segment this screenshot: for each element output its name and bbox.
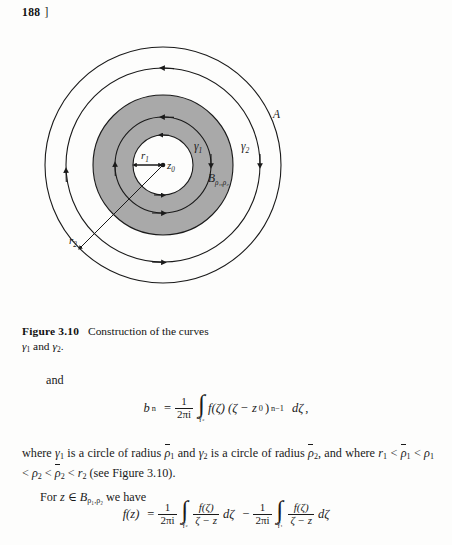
caption-period: .: [61, 340, 64, 352]
eq1-fraction: 1 2πi: [175, 396, 193, 420]
eq2-minus: −: [242, 507, 249, 522]
eq1-exponent: n−1: [271, 404, 284, 413]
document-page: 188]: [0, 0, 452, 545]
paragraph-where: where γ1 is a circle of radius ρ1 and γ2…: [22, 445, 434, 486]
page-number: 188: [22, 6, 40, 18]
p-line1b: is a circle of radius: [64, 446, 165, 460]
p-line1e: , and: [318, 446, 342, 460]
eq2-fraction-1: 1 2πi: [158, 502, 176, 526]
p-lt4: <: [42, 466, 55, 480]
eq1-integrand: f(ζ) (ζ − z: [208, 401, 257, 416]
label-radius-r1: r1: [141, 149, 149, 164]
arrow-gamma2-top: [162, 68, 174, 69]
eq2-frac1-den: 2πi: [158, 514, 176, 527]
explanatory-paragraph: where γ1 is a circle of radius ρ1 and γ2…: [22, 442, 434, 509]
p-rb2: ρ: [55, 465, 61, 481]
eq1-integral-limit: γ₂: [199, 413, 205, 422]
running-head: 188]: [22, 6, 49, 18]
p-rho2-bar: ρ: [308, 445, 314, 461]
lead-word-and: and: [22, 372, 434, 388]
figure-drawing: A γ1 γ2 Bρ₁,ρ₂ r1 z0 r2: [14, 42, 344, 322]
figure-3-10: A γ1 γ2 Bρ₁,ρ₂ r1 z0 r2: [14, 42, 344, 322]
p-line2b: (see Figure 3.10).: [86, 466, 175, 480]
eq2-equals: =: [147, 507, 154, 522]
eq2-int1-den: ζ − z: [193, 514, 219, 527]
p-rb1: ρ: [401, 445, 407, 461]
eq2-frac1-num: 1: [163, 502, 173, 514]
page-number-bracket: ]: [40, 6, 48, 18]
figure-caption: Figure 3.10Construction of the curves γ1…: [22, 324, 322, 357]
eq2-fraction-2: 1 2πi: [253, 502, 271, 526]
caption-text: Construction of the curves: [79, 325, 209, 337]
eq1-equals: =: [164, 401, 171, 416]
p-line2a: where: [345, 446, 378, 460]
eq2-diff2: dζ: [318, 507, 329, 522]
eq1-trailing: ,: [305, 401, 308, 416]
eq1-frac-num: 1: [179, 396, 189, 408]
label-gamma2: γ2: [241, 140, 250, 155]
caption-figure-number: Figure 3.10: [22, 325, 79, 337]
p-p1-sub: 1: [430, 452, 434, 461]
eq2-integral-1: ∫ γ₂: [182, 500, 189, 528]
integral-icon: ∫: [277, 500, 284, 520]
eq1-lhs: b: [144, 401, 150, 416]
eq1-integrand-sub: 0: [259, 404, 263, 413]
label-center-z0: z0: [166, 159, 175, 174]
eq2-int1-limit: γ₂: [182, 519, 188, 528]
eq2-integrand-2: f(ζ) ζ − z: [288, 502, 314, 526]
equation-fz: f(z) = 1 2πi ∫ γ₂ f(ζ) ζ − z dζ − 1 2πi: [0, 500, 452, 528]
eq1-differential: dζ: [292, 401, 303, 416]
equation-bn: bn = 1 2πi ∫ γ₂ f(ζ) (ζ − z0)n−1 dζ,: [0, 394, 452, 422]
p-line1a: where: [22, 446, 55, 460]
label-region-A: A: [272, 108, 281, 120]
eq2-int2-den: ζ − z: [288, 514, 314, 527]
eq1-frac-den: 2πi: [175, 408, 193, 421]
p-lt2: <: [411, 446, 425, 460]
p-lt1: <: [387, 446, 401, 460]
p-line1c: and: [174, 446, 198, 460]
integral-icon: ∫: [182, 500, 189, 520]
p-line1d: is a circle of radius: [207, 446, 308, 460]
p-lt5: <: [65, 466, 78, 480]
eq2-frac2-den: 2πi: [253, 514, 271, 527]
eq2-int2-num: f(ζ): [292, 502, 311, 514]
eq2-lhs: f(z): [123, 507, 140, 522]
eq2-diff1: dζ: [223, 507, 234, 522]
eq2-integrand-1: f(ζ) ζ − z: [193, 502, 219, 526]
eq1-integrand-close: ): [265, 401, 269, 416]
eq2-frac2-num: 1: [258, 502, 268, 514]
center-point-z0: [161, 163, 166, 168]
p-lt3: <: [22, 466, 32, 480]
label-radius-r2: r2: [69, 234, 77, 249]
eq2-int1-num: f(ζ): [197, 502, 216, 514]
integral-icon: ∫: [198, 394, 205, 414]
p-rho1-bar: ρ: [164, 445, 170, 461]
eq1-lhs-sub: n: [152, 404, 156, 413]
eq2-int2-limit: γ₁: [277, 519, 283, 528]
eq1-integral: ∫ γ₂: [198, 394, 205, 422]
caption-and: and: [30, 340, 52, 352]
eq2-integral-2: ∫ γ₁: [277, 500, 284, 528]
body-text: and: [22, 372, 434, 388]
